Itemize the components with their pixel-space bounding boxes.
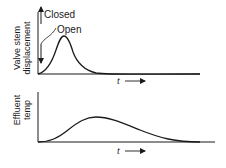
- top-plot: Valve stem displacement Closed Open t: [12, 7, 200, 86]
- top-xlabel: t: [117, 75, 120, 86]
- bottom-plot: Effluent temp t: [12, 92, 215, 156]
- bottom-ylabel-line1: Effluent: [12, 94, 22, 125]
- top-ylabel-line1: Valve stem: [12, 26, 22, 70]
- diagram-canvas: Valve stem displacement Closed Open t Ef…: [0, 0, 226, 168]
- open-label: Open: [57, 24, 81, 35]
- bottom-xlabel: t: [117, 145, 120, 156]
- bottom-ylabel-line2: temp: [22, 100, 32, 120]
- valve-displacement-curve: [38, 36, 200, 74]
- effluent-temp-curve: [38, 117, 200, 142]
- top-ylabel-line2: displacement: [22, 21, 32, 75]
- closed-label: Closed: [44, 9, 75, 20]
- open-leader-line: [41, 28, 56, 44]
